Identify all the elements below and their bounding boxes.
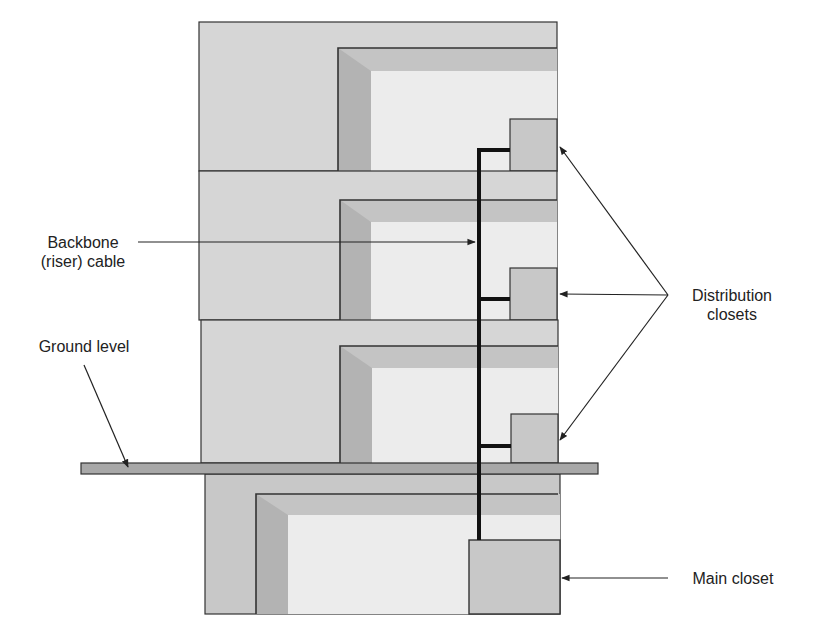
backbone-label-line1: Backbone: [28, 233, 138, 252]
backbone-label-line2: (riser) cable: [28, 252, 138, 271]
basement: [205, 474, 560, 614]
floor-1: [201, 320, 558, 463]
distribution-leader-line-bottom: [560, 295, 668, 440]
distribution-closet-2: [510, 268, 557, 320]
distribution-closets-label: Distribution closets: [676, 286, 788, 324]
distribution-closet-3: [510, 119, 557, 171]
ground-level-leader-line: [84, 365, 128, 467]
distribution-leader-line-top: [560, 147, 668, 295]
distribution-leader-line-mid: [560, 294, 668, 295]
ground-level-slab: [81, 463, 598, 474]
main-closet: [469, 540, 560, 614]
distribution-label-line1: Distribution: [676, 286, 788, 305]
distribution-label-line2: closets: [676, 305, 788, 324]
ground-level-label: Ground level: [24, 337, 144, 356]
backbone-label: Backbone (riser) cable: [28, 233, 138, 271]
main-closet-label: Main closet: [678, 569, 788, 588]
distribution-closet-1: [511, 414, 558, 463]
